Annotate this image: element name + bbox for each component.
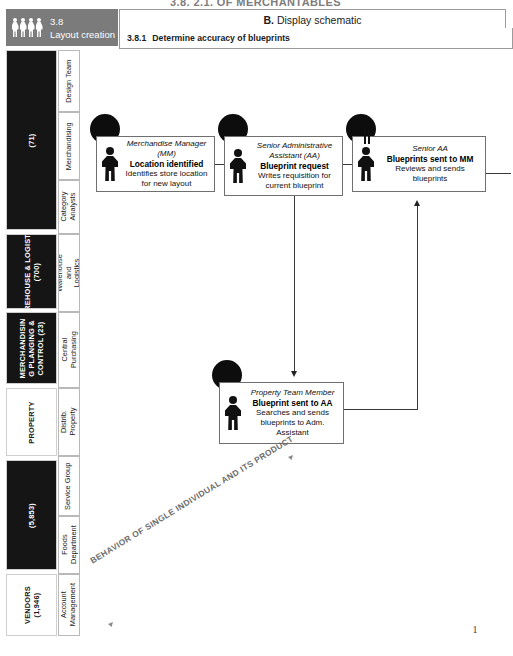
person-figure-icon bbox=[353, 137, 379, 191]
department-name: MERCHANDISIN G PLANGING & CONTROL (23) bbox=[18, 318, 45, 378]
swimlane-label-text: Distrib. Property bbox=[60, 408, 77, 436]
process-number: 3.8 bbox=[50, 15, 115, 28]
department-block-5: (5,853) bbox=[6, 460, 57, 570]
department-count: (700) bbox=[32, 262, 41, 280]
swimlane-label-text: Design Team bbox=[65, 60, 74, 103]
section-title-text: Display schematic bbox=[277, 14, 362, 26]
connector-step4-to-step3-vertical bbox=[417, 206, 418, 410]
department-name: WAREHOUSE & LOGISTICS bbox=[23, 234, 32, 309]
process-box-blueprint-request[interactable]: Senior Administrative Assistant (AA) Blu… bbox=[224, 136, 343, 196]
department-block-1: (71) bbox=[6, 50, 57, 230]
people-group-icon bbox=[6, 9, 48, 46]
department-block-3: MERCHANDISIN G PLANGING & CONTROL (23) bbox=[6, 312, 57, 384]
swimlane-label-central-purchasing: Central Purchasing bbox=[58, 312, 80, 388]
department-block-6: VENDORS(1,946) bbox=[6, 574, 57, 636]
process-role: Merchandise Manager (MM) bbox=[123, 139, 210, 159]
process-description: Reviews and sends blueprints bbox=[379, 164, 481, 184]
diagonal-start-tick-icon bbox=[108, 622, 113, 627]
swimlane-label-design-team: Design Team bbox=[58, 50, 80, 112]
swimlane-label-category-analysts: Category Analysts bbox=[58, 180, 80, 234]
swimlane-label-text: Service Group bbox=[65, 462, 74, 509]
swimlane-label-text: Central Purchasing bbox=[60, 332, 77, 369]
page-number: 1 bbox=[465, 624, 485, 635]
process-role: Senior Administrative Assistant (AA) bbox=[251, 141, 338, 161]
swimlane-label-distrib-property: Distrib. Property bbox=[58, 388, 80, 456]
process-role: Property Team Member bbox=[246, 388, 339, 398]
swimlane-label-warehouse-and-logistics: Warehouse and Logistics bbox=[58, 234, 80, 312]
swimlane-label-service-group: Service Group bbox=[58, 456, 80, 516]
process-action: Blueprint sent to AA bbox=[246, 398, 339, 409]
delay-bars-icon bbox=[364, 130, 370, 144]
section-title-bar: B. Display schematic bbox=[119, 9, 506, 30]
swimlane-label-text: Category Analysts bbox=[60, 192, 77, 222]
department-block-2: WAREHOUSE & LOGISTICS(700) bbox=[6, 234, 57, 309]
person-figure-icon bbox=[97, 137, 123, 191]
person-figure-icon bbox=[225, 137, 251, 195]
swimlane-label-text: Account Management bbox=[60, 583, 77, 626]
person-figure-icon bbox=[220, 383, 246, 443]
department-count: (1,946) bbox=[31, 593, 40, 618]
process-description: Writes requisition for current blueprint bbox=[251, 171, 338, 191]
section-title-prefix: B. bbox=[263, 14, 274, 26]
department-name: VENDORS bbox=[22, 586, 31, 624]
arrowhead-up bbox=[414, 200, 420, 206]
process-action: Blueprints sent to MM bbox=[379, 154, 481, 165]
connector-step2-to-step4 bbox=[294, 196, 295, 372]
department-block-4: PROPERTY bbox=[6, 388, 57, 456]
process-box-location-identified[interactable]: Merchandise Manager (MM) Location identi… bbox=[96, 136, 215, 192]
swimlane-label-account-management: Account Management bbox=[58, 574, 80, 636]
process-action: Location identified bbox=[123, 159, 210, 170]
department-count: (71) bbox=[27, 133, 36, 147]
subsection-title-bar: 3.8.1 Determine accuracy of blueprints bbox=[119, 28, 513, 49]
process-role: Senior AA bbox=[379, 144, 481, 154]
subsection-number: 3.8.1 bbox=[127, 33, 146, 43]
department-count: (5,853) bbox=[27, 503, 36, 528]
process-name: Layout creation bbox=[50, 28, 115, 41]
swimlane-label-text: Foods Department bbox=[60, 526, 77, 565]
process-box-blueprints-sent-to-mm[interactable]: Senior AA Blueprints sent to MM Reviews … bbox=[352, 136, 486, 192]
swimlane-label-text: Merchandising bbox=[65, 122, 74, 170]
process-header-badge: 3.8 Layout creation bbox=[6, 9, 118, 46]
subsection-text: Determine accuracy of blueprints bbox=[152, 33, 290, 43]
department-name: PROPERTY bbox=[27, 401, 36, 443]
connector-step3-to-offpage bbox=[486, 173, 511, 174]
swimlane-label-foods-department: Foods Department bbox=[58, 516, 80, 574]
process-description: Identifies store location for new layout bbox=[123, 169, 210, 189]
arrowhead-down bbox=[291, 371, 297, 377]
document-top-title: 3.8. 2.1. OF MERCHANTABLES bbox=[0, 0, 511, 6]
diagonal-end-tick-icon bbox=[288, 455, 293, 460]
swimlane-label-text: Warehouse and Logistics bbox=[58, 254, 80, 292]
process-action: Blueprint request bbox=[251, 161, 338, 172]
swimlane-label-merchandising: Merchandising bbox=[58, 112, 80, 180]
